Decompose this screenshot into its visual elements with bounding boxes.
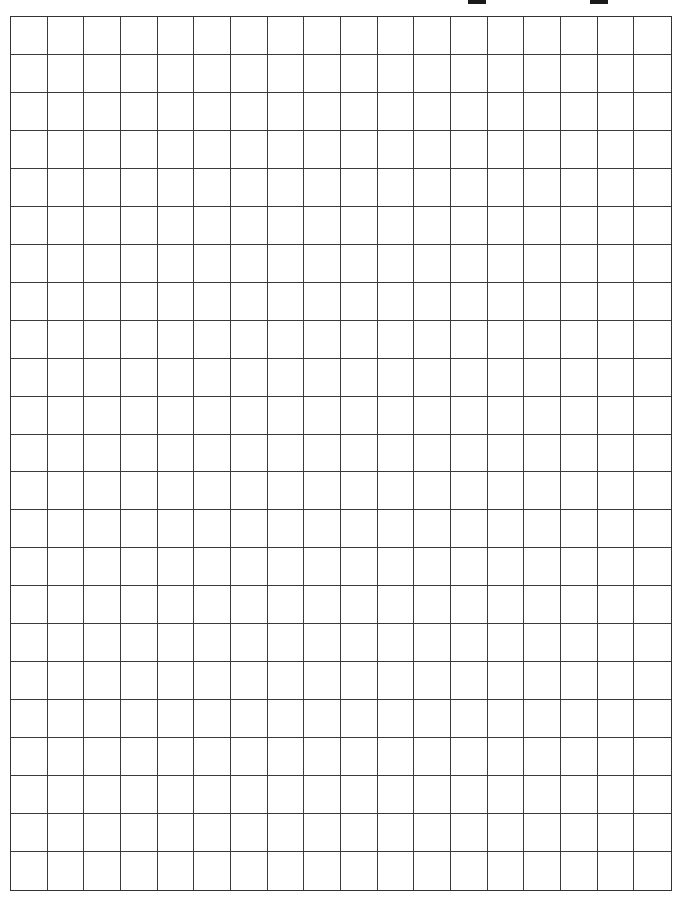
grid-cell: [488, 207, 525, 245]
grid-cell: [634, 776, 671, 814]
grid-cell: [121, 624, 158, 662]
grid-cell: [48, 662, 85, 700]
grid-cell: [84, 245, 121, 283]
grid-cell: [561, 283, 598, 321]
grid-cell: [524, 359, 561, 397]
grid-cell: [268, 776, 305, 814]
grid-cell: [488, 131, 525, 169]
grid-cell: [561, 624, 598, 662]
grid-cell: [524, 662, 561, 700]
grid-cell: [451, 472, 488, 510]
grid-cell: [524, 245, 561, 283]
grid-cell: [194, 776, 231, 814]
grid-cell: [84, 548, 121, 586]
grid-cell: [341, 662, 378, 700]
grid-cell: [121, 17, 158, 55]
grid-cell: [84, 586, 121, 624]
grid-cell: [598, 510, 635, 548]
grid-cell: [524, 435, 561, 473]
grid-cell: [194, 93, 231, 131]
grid-cell: [598, 17, 635, 55]
grid-cell: [231, 245, 268, 283]
grid-cell: [121, 321, 158, 359]
grid-cell: [231, 662, 268, 700]
grid-cell: [194, 359, 231, 397]
grid-cell: [304, 435, 341, 473]
grid-cell: [561, 17, 598, 55]
grid-cell: [304, 93, 341, 131]
grid-cell: [378, 472, 415, 510]
grid-cell: [121, 472, 158, 510]
grid-cell: [121, 359, 158, 397]
grid-cell: [414, 245, 451, 283]
grid-cell: [634, 397, 671, 435]
field-2-underline: [590, 0, 608, 4]
grid-cell: [451, 283, 488, 321]
grid-cell: [158, 245, 195, 283]
grid-cell: [634, 700, 671, 738]
grid-cell: [231, 814, 268, 852]
grid-cell: [121, 93, 158, 131]
grid-cell: [451, 776, 488, 814]
grid-cell: [84, 510, 121, 548]
grid-cell: [634, 93, 671, 131]
grid-cell: [121, 738, 158, 776]
grid-cell: [524, 321, 561, 359]
grid-cell: [158, 397, 195, 435]
grid-cell: [561, 397, 598, 435]
grid-cell: [121, 131, 158, 169]
grid-cell: [414, 510, 451, 548]
grid-cell: [11, 397, 48, 435]
grid-cell: [268, 814, 305, 852]
grid-cell: [598, 283, 635, 321]
grid-cell: [11, 776, 48, 814]
grid-cell: [378, 700, 415, 738]
grid-cell: [231, 738, 268, 776]
grid-cell: [414, 93, 451, 131]
grid-cell: [561, 245, 598, 283]
grid-cell: [48, 700, 85, 738]
grid-cell: [231, 169, 268, 207]
grid-cell: [341, 472, 378, 510]
grid-cell: [304, 169, 341, 207]
grid-cell: [451, 435, 488, 473]
grid-cell: [268, 17, 305, 55]
grid-cell: [11, 472, 48, 510]
grid-cell: [11, 814, 48, 852]
grid-cell: [378, 776, 415, 814]
grid-cell: [341, 738, 378, 776]
grid-cell: [524, 548, 561, 586]
grid-cell: [11, 852, 48, 890]
grid-cell: [634, 662, 671, 700]
grid-cell: [11, 359, 48, 397]
grid-cell: [48, 283, 85, 321]
grid-cell: [561, 321, 598, 359]
grid-cell: [414, 283, 451, 321]
grid-cell: [341, 776, 378, 814]
grid-cell: [634, 548, 671, 586]
grid-cell: [488, 586, 525, 624]
grid-cell: [48, 586, 85, 624]
grid-cell: [634, 586, 671, 624]
grid-cell: [84, 852, 121, 890]
grid-cell: [561, 472, 598, 510]
grid-cell: [121, 55, 158, 93]
grid-cell: [341, 321, 378, 359]
grid-cell: [158, 814, 195, 852]
grid-cell: [304, 510, 341, 548]
grid-cell: [598, 169, 635, 207]
grid-cell: [341, 852, 378, 890]
grid-cell: [158, 776, 195, 814]
grid-cell: [194, 548, 231, 586]
grid-cell: [268, 131, 305, 169]
grid-cell: [121, 283, 158, 321]
grid-cell: [121, 814, 158, 852]
grid-cell: [194, 662, 231, 700]
grid-cell: [414, 435, 451, 473]
grid-cell: [304, 17, 341, 55]
grid-cell: [84, 776, 121, 814]
grid-cell: [268, 472, 305, 510]
grid-cell: [268, 738, 305, 776]
grid-cell: [378, 738, 415, 776]
grid-cell: [158, 472, 195, 510]
